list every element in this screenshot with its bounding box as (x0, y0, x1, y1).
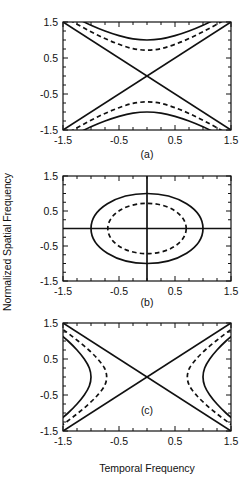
curve-0-2 (63, 16, 231, 50)
panel-label-2: (c) (141, 404, 153, 416)
figure-panel-group: Normalized Spatial Frequency -1.5-0.50.5… (0, 0, 248, 485)
y-tick-label-1-2: -0.5 (40, 240, 58, 252)
x-tick-label-2-1: -0.5 (110, 435, 128, 447)
x-tick-label-0-3: 1.5 (224, 134, 239, 146)
y-tick-label-2-3: -1.5 (40, 425, 58, 437)
x-tick-label-2-2: 0.5 (168, 435, 183, 447)
curve-0-1 (63, 112, 231, 141)
curve-2-2 (187, 323, 240, 431)
y-tick-label-2-1: 0.5 (43, 353, 58, 365)
y-tick-label-1-0: 1.5 (43, 170, 58, 182)
y-tick-label-2-0: 1.5 (43, 317, 58, 329)
y-tick-label-1-3: -1.5 (40, 275, 58, 287)
series-group-0 (63, 11, 231, 141)
curve-2-3 (54, 323, 107, 431)
curve-2-0 (203, 323, 248, 431)
x-tick-label-1-1: -0.5 (110, 285, 128, 297)
y-tick-label-0-1: 0.5 (43, 52, 58, 64)
curve-2-1 (46, 323, 91, 431)
curve-0-0 (63, 11, 231, 40)
panel-label-1: (b) (141, 296, 154, 308)
y-tick-label-0-0: 1.5 (43, 16, 58, 28)
curve-0-3 (63, 102, 231, 136)
x-tick-label-0-1: -0.5 (110, 134, 128, 146)
panel-label-0: (a) (141, 148, 154, 160)
x-tick-label-2-3: 1.5 (224, 435, 239, 447)
y-tick-label-0-2: -0.5 (40, 88, 58, 100)
y-tick-label-0-3: -1.5 (40, 124, 58, 136)
x-tick-label-0-2: 0.5 (168, 134, 183, 146)
x-tick-label-1-3: 1.5 (224, 285, 239, 297)
figure-canvas: -1.5-0.50.51.51.50.5-0.5-1.5(a)-1.5-0.50… (0, 0, 248, 485)
x-tick-label-1-2: 0.5 (168, 285, 183, 297)
y-tick-label-2-2: -0.5 (40, 389, 58, 401)
series-group-1 (63, 176, 231, 281)
x-axis-label: Temporal Frequency (63, 462, 231, 474)
y-tick-label-1-1: 0.5 (43, 205, 58, 217)
